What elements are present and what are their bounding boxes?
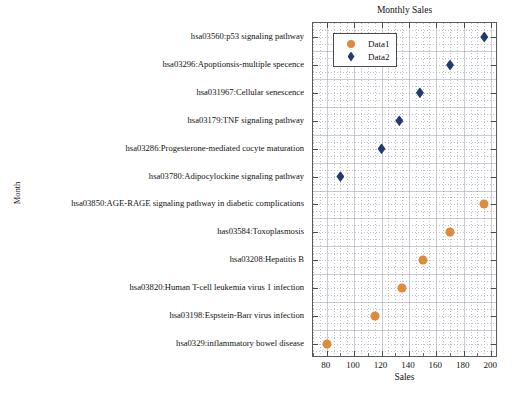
y-axis-category-label: hsa03296:Apoptionsis-multiple specence	[0, 60, 308, 69]
y-axis-tick	[313, 232, 318, 233]
x-axis-tick	[409, 23, 410, 28]
y-axis-tick	[491, 177, 496, 178]
y-axis-tick	[313, 37, 318, 38]
legend-item-data1[interactable]: Data1	[338, 37, 390, 50]
minor-gridline-h	[313, 281, 496, 282]
y-axis-tick	[313, 65, 318, 66]
x-axis-minor-tick	[395, 353, 396, 356]
x-axis-title: Sales	[312, 372, 497, 382]
y-axis-category-label: hsa031967:Cellular senescence	[0, 87, 308, 96]
legend-label: Data2	[364, 52, 390, 62]
gridline-h	[313, 79, 496, 80]
gridline-v	[436, 23, 437, 356]
y-axis-category-label: hsa03820:Human T-cell leukemia virus 1 i…	[0, 283, 308, 292]
y-axis-tick	[491, 65, 496, 66]
minor-gridline-h	[313, 323, 496, 324]
minor-gridline-h	[313, 142, 496, 143]
y-axis-tick	[313, 93, 318, 94]
minor-gridline-h	[313, 267, 496, 268]
y-axis-category-label: has03584:Toxoplasmosis	[0, 227, 308, 236]
gridline-h	[313, 330, 496, 331]
gridline-h	[313, 107, 496, 108]
minor-gridline-h	[313, 295, 496, 296]
chart-legend[interactable]: Data1 Data2	[333, 33, 397, 67]
gridline-h	[313, 191, 496, 192]
circle-marker-icon	[338, 40, 364, 48]
minor-gridline-h	[313, 156, 496, 157]
y-axis-category-label: hsa03560:p53 signaling pathway	[0, 32, 308, 41]
y-axis-tick	[313, 121, 318, 122]
x-axis-tick	[354, 351, 355, 356]
gridline-h	[313, 246, 496, 247]
gridline-h	[313, 302, 496, 303]
x-axis-tick-label: 120	[374, 360, 388, 370]
y-axis-tick	[491, 149, 496, 150]
x-axis-minor-tick	[477, 353, 478, 356]
minor-gridline-h	[313, 100, 496, 101]
x-axis-minor-tick	[450, 353, 451, 356]
x-axis-tick	[436, 23, 437, 28]
data-point-data1[interactable]	[322, 340, 331, 349]
gridline-h	[313, 135, 496, 136]
diamond-marker-icon	[338, 52, 364, 62]
data-point-data1[interactable]	[418, 256, 427, 265]
x-axis-tick	[382, 23, 383, 28]
x-axis-tick	[327, 351, 328, 356]
legend-item-data2[interactable]: Data2	[338, 50, 390, 63]
minor-gridline-h	[313, 170, 496, 171]
legend-label: Data1	[364, 39, 390, 49]
y-axis-tick	[491, 316, 496, 317]
y-axis-tick	[491, 232, 496, 233]
y-axis-category-label: hsa03179:TNF signaling pathway	[0, 115, 308, 124]
gridline-h	[313, 163, 496, 164]
data-point-data1[interactable]	[480, 200, 489, 209]
data-point-data1[interactable]	[398, 284, 407, 293]
data-point-data1[interactable]	[370, 312, 379, 321]
x-axis-tick-label: 80	[321, 360, 330, 370]
data-point-data1[interactable]	[446, 228, 455, 237]
chart-title: Monthly Sales	[312, 5, 497, 15]
y-axis-tick	[491, 260, 496, 261]
x-axis-tick-label: 140	[401, 360, 415, 370]
x-axis-tick	[382, 351, 383, 356]
x-axis-tick	[491, 351, 492, 356]
plot-area: Data1 Data2	[312, 22, 497, 357]
y-axis-tick	[491, 344, 496, 345]
y-axis-tick	[491, 121, 496, 122]
y-axis-category-label: hsa03198:Espstein-Barr virus infection	[0, 311, 308, 320]
minor-gridline-h	[313, 197, 496, 198]
minor-gridline-h	[313, 30, 496, 31]
y-axis-category-labels: hsa03560:p53 signaling pathwayhsa03296:A…	[0, 22, 308, 357]
y-axis-tick	[313, 288, 318, 289]
gridline-v	[382, 23, 383, 356]
gridline-v	[491, 23, 492, 356]
x-axis-minor-tick	[340, 353, 341, 356]
minor-gridline-h	[313, 344, 496, 345]
y-axis-category-label: hsa03286:Progesterone-mediated cocyte ma…	[0, 143, 308, 152]
x-axis-tick	[436, 351, 437, 356]
y-axis-tick	[313, 177, 318, 178]
y-axis-tick	[491, 93, 496, 94]
y-axis-tick	[491, 37, 496, 38]
x-axis-tick	[491, 23, 492, 28]
gridline-h	[313, 274, 496, 275]
y-axis-tick	[313, 204, 318, 205]
x-axis-tick	[354, 23, 355, 28]
x-axis-tick-label: 100	[346, 360, 360, 370]
minor-gridline-h	[313, 316, 496, 317]
y-axis-tick	[313, 316, 318, 317]
y-axis-tick	[491, 204, 496, 205]
gridline-h	[313, 218, 496, 219]
minor-gridline-h	[313, 232, 496, 233]
minor-gridline-h	[313, 253, 496, 254]
minor-gridline-h	[313, 351, 496, 352]
chart-figure: Monthly Sales Month hsa03560:p53 signali…	[0, 0, 516, 396]
minor-gridline-h	[313, 211, 496, 212]
x-axis-minor-tick	[368, 353, 369, 356]
gridline-v	[464, 23, 465, 356]
minor-gridline-h	[313, 121, 496, 122]
x-axis-tick	[409, 351, 410, 356]
y-axis-category-label: hsa0329:inflammatory bowel disease	[0, 339, 308, 348]
minor-gridline-h	[313, 204, 496, 205]
minor-gridline-h	[313, 337, 496, 338]
